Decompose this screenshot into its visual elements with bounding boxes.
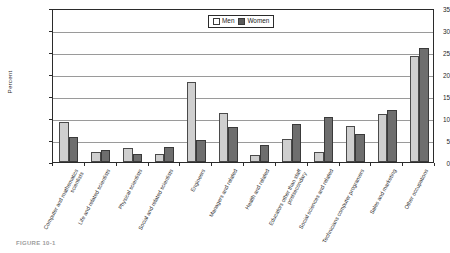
bar-men	[91, 152, 101, 162]
legend-label-men: Men	[222, 17, 234, 25]
bar-women	[164, 147, 174, 162]
bar-women	[387, 110, 397, 162]
legend-label-women: Women	[247, 17, 269, 25]
legend-swatch-women-icon	[238, 18, 245, 25]
x-axis-category-label: Computer and mathematics scientists	[34, 168, 86, 250]
bar-men	[282, 139, 292, 162]
bar-women	[228, 127, 238, 162]
x-axis-tick-mark	[243, 163, 244, 166]
x-axis-tick-mark	[402, 163, 403, 166]
bar-men	[187, 82, 197, 162]
x-axis-tick-mark	[52, 163, 53, 166]
bar-women	[355, 134, 365, 162]
plot-area	[52, 9, 434, 163]
x-axis-tick-mark	[211, 163, 212, 166]
bar-women	[260, 145, 270, 162]
figure-container: Percent 05101520253035 Computer and math…	[0, 0, 450, 253]
x-axis-tick-mark	[84, 163, 85, 166]
bar-women	[196, 140, 206, 162]
x-axis-tick-mark	[179, 163, 180, 166]
bar-men	[155, 154, 165, 162]
bar-series-layer	[53, 10, 433, 162]
legend-entry-men: Men	[213, 17, 234, 25]
bar-men	[346, 126, 356, 162]
bar-women	[101, 150, 111, 162]
bar-women	[133, 154, 143, 162]
x-axis-tick-mark	[434, 163, 435, 166]
bar-men	[410, 56, 420, 162]
bar-men	[378, 114, 388, 162]
x-axis-tick-mark	[275, 163, 276, 166]
x-axis-tick-mark	[148, 163, 149, 166]
x-axis-tick-mark	[370, 163, 371, 166]
bar-men	[314, 152, 324, 162]
bar-men	[59, 122, 69, 162]
bar-women	[292, 124, 302, 162]
figure-caption: FIGURE 10-1	[16, 240, 56, 246]
legend-swatch-men-icon	[213, 18, 220, 25]
chart-legend[interactable]: Men Women	[208, 15, 274, 28]
x-axis-tick-mark	[116, 163, 117, 166]
bar-men	[219, 113, 229, 162]
bar-women	[69, 137, 79, 162]
bar-women	[324, 117, 334, 162]
y-axis-title: Percent	[6, 52, 13, 112]
legend-entry-women: Women	[238, 17, 269, 25]
x-axis-tick-mark	[339, 163, 340, 166]
bar-men	[250, 155, 260, 162]
bar-women	[419, 48, 429, 162]
x-axis-tick-mark	[307, 163, 308, 166]
bar-men	[123, 148, 133, 162]
